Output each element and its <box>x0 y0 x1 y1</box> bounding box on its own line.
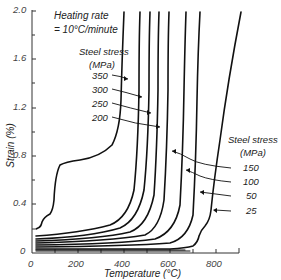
legend-150: 150 <box>243 162 259 173</box>
axes <box>32 10 239 253</box>
curves <box>36 12 241 251</box>
legend-unit-right: (MPa) <box>240 147 266 158</box>
y-tick-2.0: 2.0 <box>13 4 26 15</box>
legend-100: 100 <box>243 176 259 187</box>
x-tick-0: 0 <box>28 258 33 269</box>
heating-rate-label: Heating rate <box>54 10 108 21</box>
legend-300: 300 <box>92 84 108 95</box>
legend-title-left: Steel stress <box>79 46 129 57</box>
y-tick-1.2: 1.2 <box>13 101 26 112</box>
legend-title-right: Steel stress <box>228 134 278 145</box>
y-tick-0.4: 0.4 <box>13 197 26 208</box>
heating-rate-value: = 10°C/minute <box>54 24 118 35</box>
legend-50: 50 <box>246 190 257 201</box>
legend-350: 350 <box>92 70 108 81</box>
legend-25: 25 <box>246 205 257 216</box>
curve-350 <box>36 12 124 229</box>
y-axis-title: Strain (%) <box>5 123 16 167</box>
y-tick-0: 0 <box>20 245 25 256</box>
x-tick-800: 800 <box>206 258 222 269</box>
y-tick-1.6: 1.6 <box>13 52 26 63</box>
x-tick-200: 200 <box>68 258 84 269</box>
legend-unit-left: (MPa) <box>89 59 115 70</box>
legend-200: 200 <box>92 112 108 123</box>
legend-250: 250 <box>92 98 108 109</box>
x-axis-title: Temperature (°C) <box>104 268 181 279</box>
